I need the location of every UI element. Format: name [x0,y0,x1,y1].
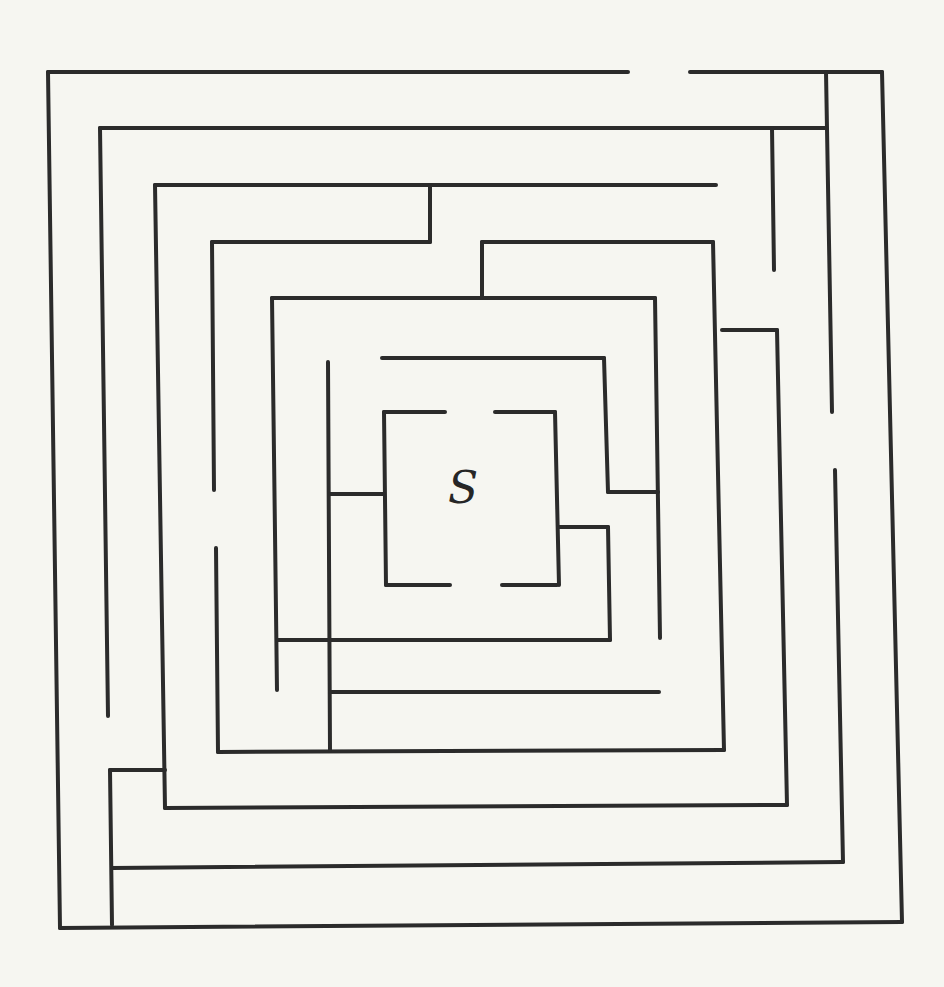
maze-wall [212,242,214,490]
maze-wall [218,750,724,752]
maze-wall [155,185,165,808]
maze-wall [835,470,843,862]
maze-wall [555,412,559,585]
maze-wall [608,527,610,640]
maze-wall [655,298,660,638]
maze-wall [60,922,902,928]
start-marker: S [448,462,478,513]
maze-wall [777,330,787,805]
maze-wall [826,72,832,412]
maze-wall [112,862,843,868]
maze-wall [48,72,60,928]
maze-wall [165,805,787,808]
maze-wall [384,412,386,585]
maze-wall [604,358,608,492]
maze-wall [110,770,112,925]
maze-wall [272,298,277,690]
maze-wall [713,242,724,750]
maze-wall [882,72,902,922]
maze-wall [772,128,774,270]
maze-wall [216,548,218,752]
maze-wall [100,128,108,716]
